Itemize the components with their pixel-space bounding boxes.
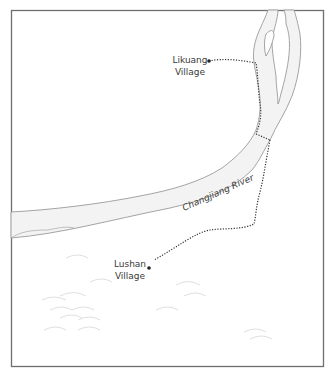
lushan-name-line1: Lushan: [110, 258, 150, 270]
likuang-name-line1: Likuang: [168, 54, 212, 66]
lushan-name-line2: Village: [110, 270, 150, 282]
lushan-village-label: Lushan Village: [110, 258, 150, 282]
likuang-name-line2: Village: [168, 66, 212, 78]
likuang-village-label: Likuang Village: [168, 54, 212, 78]
